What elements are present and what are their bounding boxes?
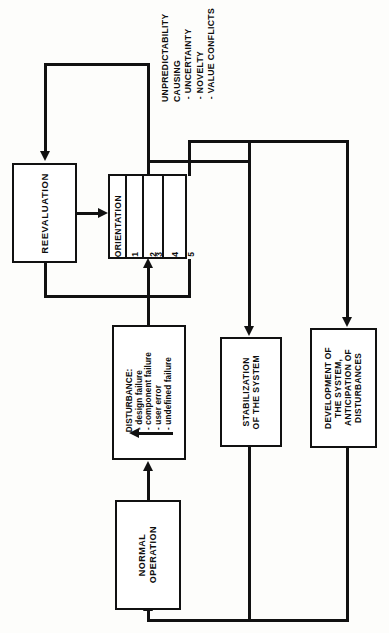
connector-normal-operation-to-disturbance	[147, 470, 150, 502]
connector-bottom-return-rail	[147, 619, 349, 622]
node-disturbance-label: DISTURBANCE: - design failure - componen…	[125, 352, 173, 432]
node-stabilization[interactable]: STABILIZATION OF THE SYSTEM	[220, 337, 282, 447]
disturbance-internal-arrow-shaft	[139, 432, 173, 435]
orientation-cell-4-label: 4	[167, 249, 183, 257]
connector-to-stabilization	[248, 140, 251, 326]
connector-top-loop-cross	[44, 63, 150, 66]
node-reevaluation-label: REEVALUATION	[39, 173, 50, 254]
diagram-canvas: UNPREDICTABILITY CAUSING - UNCERTAINTY -…	[0, 0, 389, 633]
node-disturbance[interactable]: DISTURBANCE: - design failure - componen…	[112, 325, 186, 460]
arrow-into-disturbance-bottom	[143, 461, 153, 471]
node-orientation[interactable]: ORIENTATION 1 2 3 4 5	[108, 174, 187, 259]
orientation-cell-1-label: 1	[130, 249, 140, 257]
orientation-cell-5-label: 5	[183, 249, 199, 257]
arrow-into-development-top	[342, 317, 352, 327]
node-reevaluation[interactable]: REEVALUATION	[12, 163, 77, 263]
disturbance-internal-arrow-head	[129, 428, 139, 438]
connector-top-loop-riser	[147, 63, 150, 163]
node-development-label: DEVELOPMENT OF THE SYSTEM, ANTICIPATION …	[324, 347, 364, 429]
connector-bus-riser-left	[188, 140, 191, 161]
connector-to-development	[346, 140, 349, 317]
connector-orientation-loop-riser	[44, 263, 47, 297]
connector-reevaluation-to-orientation	[77, 212, 100, 215]
orientation-title-cell: ORIENTATION	[110, 176, 127, 257]
arrow-into-orientation-bottom	[143, 258, 153, 268]
arrow-into-stabilization-top	[244, 326, 254, 336]
arrow-into-orientation-left	[98, 208, 108, 218]
connector-bus-to-orientation-cell2	[188, 160, 191, 176]
connector-development-return	[346, 448, 349, 621]
orientation-cell-1[interactable]: 1	[127, 176, 144, 257]
connector-stabilization-return	[248, 447, 251, 621]
node-normal-operation-label: NORMAL OPERATION	[137, 526, 158, 583]
connector-into-normal-operation	[147, 610, 150, 621]
connector-top-rail	[188, 140, 349, 143]
connector-orientation-loop-cross	[44, 295, 191, 298]
unpredictability-annotation-text: UNPREDICTABILITY CAUSING - UNCERTAINTY -…	[160, 8, 218, 102]
arrow-into-reevaluation-top	[40, 151, 50, 161]
orientation-cell-345[interactable]: 3 4 5	[164, 176, 185, 257]
node-development[interactable]: DEVELOPMENT OF THE SYSTEM, ANTICIPATION …	[310, 328, 377, 448]
unpredictability-annotation: UNPREDICTABILITY CAUSING - UNCERTAINTY -…	[160, 8, 246, 134]
connector-top-loop-descender	[44, 63, 47, 151]
orientation-title: ORIENTATION	[113, 193, 123, 257]
orientation-cell-3-label: 3	[151, 249, 167, 257]
connector-disturbance-to-orientation	[147, 266, 150, 325]
connector-bus-upper	[147, 160, 251, 163]
node-stabilization-label: STABILIZATION OF THE SYSTEM	[241, 355, 261, 429]
connector-orientation-loop-descender	[188, 259, 191, 297]
node-normal-operation[interactable]: NORMAL OPERATION	[115, 500, 181, 610]
